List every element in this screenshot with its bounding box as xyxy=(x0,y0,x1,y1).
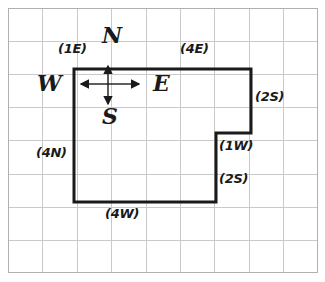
segment-label-right-upper-edge: (2S) xyxy=(255,90,284,103)
compass-label-west: W xyxy=(37,72,62,94)
compass-label-east: E xyxy=(153,72,170,94)
compass-label-north: N xyxy=(102,24,122,46)
segment-label-top-left-vertex: (1E) xyxy=(58,42,87,55)
segment-label-bottom-edge: (4W) xyxy=(105,207,139,220)
segment-label-step-edge: (1W) xyxy=(219,139,253,152)
compass-rose xyxy=(0,0,325,282)
segment-label-right-lower-edge: (2S) xyxy=(219,172,248,185)
segment-label-left-edge: (4N) xyxy=(36,146,67,159)
compass-label-south: S xyxy=(102,105,118,127)
segment-label-top-edge: (4E) xyxy=(180,42,209,55)
figure-canvas: N S W E (1E) (4E) (2S) (1W) (2S) (4W) (4… xyxy=(0,0,325,282)
